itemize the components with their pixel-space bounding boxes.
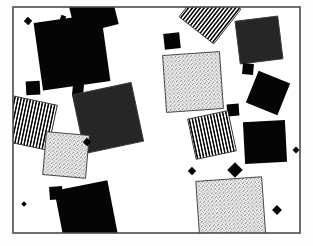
black-square-right-lower <box>243 120 287 164</box>
dark-texture-square-top-right <box>235 16 283 64</box>
black-square-small-upper-center <box>163 32 181 50</box>
light-stipple-square-upper-right <box>163 52 224 113</box>
light-stipple-square-left <box>43 132 90 179</box>
abstract-squares-illustration <box>0 0 313 246</box>
striped-square-right-center <box>188 111 237 160</box>
artwork-canvas <box>0 0 313 246</box>
black-square-small-left <box>26 81 41 96</box>
black-square-tiny-right-upper <box>242 63 254 75</box>
black-square-large-upper-left <box>34 14 111 91</box>
